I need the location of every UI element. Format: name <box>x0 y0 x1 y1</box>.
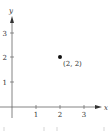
coordinate-plane: 1 2 3 1 2 3 y x (2, 2) <box>0 0 110 131</box>
y-axis-label: y <box>8 7 14 15</box>
y-tick-label-3: 3 <box>3 30 7 38</box>
point-label: (2, 2) <box>63 60 82 68</box>
data-point <box>58 55 62 59</box>
x-axis-arrow-icon <box>95 105 102 109</box>
x-tick-label-3: 3 <box>82 111 86 119</box>
x-axis-label: x <box>104 104 108 112</box>
chart-container: 1 2 3 1 2 3 y x (2, 2) <box>0 0 110 131</box>
y-tick-label-2: 2 <box>3 54 7 62</box>
y-tick-label-1: 1 <box>3 79 7 87</box>
y-axis-arrow-icon <box>10 16 14 23</box>
x-tick-label-2: 2 <box>58 111 62 119</box>
x-tick-label-1: 1 <box>34 111 38 119</box>
